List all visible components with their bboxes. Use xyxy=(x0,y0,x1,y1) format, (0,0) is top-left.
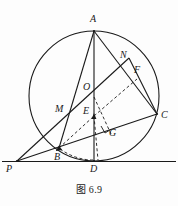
point-A xyxy=(93,30,95,32)
arrow-E-up xyxy=(92,113,97,119)
label-G: G xyxy=(109,128,116,138)
label-D: D xyxy=(90,164,97,174)
segment-E-D xyxy=(94,116,98,160)
segment-P-N xyxy=(17,58,129,161)
label-A: A xyxy=(90,14,96,24)
point-P xyxy=(16,160,18,162)
figure-caption: 图 6.9 xyxy=(0,184,178,196)
label-E: E xyxy=(83,106,89,116)
segment-P-C xyxy=(17,114,157,161)
point-C xyxy=(156,113,158,115)
label-P: P xyxy=(6,164,12,174)
segment-A-C xyxy=(94,31,157,114)
label-N: N xyxy=(120,50,127,60)
point-D xyxy=(93,160,95,162)
geometry-diagram xyxy=(0,0,178,206)
label-F: F xyxy=(134,65,140,75)
geometry-figure: A N F O M E C G B D P 图 6.9 xyxy=(0,0,178,206)
label-B: B xyxy=(54,152,60,162)
label-O: O xyxy=(83,82,90,92)
label-C: C xyxy=(161,110,168,120)
label-M: M xyxy=(55,104,63,114)
